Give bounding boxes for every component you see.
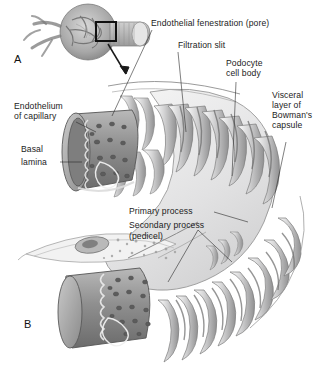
label-visceral-layer-line1: Visceral: [272, 90, 303, 100]
label-endothelium-line1: Endothelium: [14, 101, 63, 111]
label-primary-process: Primary process: [129, 206, 193, 216]
label-filtration-slit: Filtration slit: [178, 40, 225, 50]
capillary-upper: [62, 110, 138, 191]
label-visceral-layer-line4: capsule: [272, 120, 302, 130]
label-basal-lamina-line1: Basal: [21, 144, 43, 154]
label-secondary-process-line1: Secondary process: [129, 220, 204, 230]
label-podocyte-cell-body-line1: Podocyte: [226, 58, 263, 68]
label-endothelium-line2: of capillary: [14, 111, 56, 121]
panel-label-b: B: [24, 318, 32, 330]
anatomy-illustration: [0, 0, 326, 365]
figure-root: Endothelial fenestration (pore) Filtrati…: [0, 0, 326, 365]
panel-a-illustration: [24, 4, 150, 74]
label-visceral-layer-line2: layer of: [272, 100, 301, 110]
label-secondary-process-line2: (pedicel): [129, 231, 163, 241]
capillary-lower: [58, 268, 150, 348]
label-podocyte-cell-body-line2: cell body: [226, 68, 261, 78]
label-basal-lamina-line2: lamina: [21, 157, 47, 167]
label-endothelial-fenestration: Endothelial fenestration (pore): [151, 18, 269, 28]
label-visceral-layer-line3: Bowman's: [272, 110, 312, 120]
panel-label-a: A: [14, 53, 22, 65]
